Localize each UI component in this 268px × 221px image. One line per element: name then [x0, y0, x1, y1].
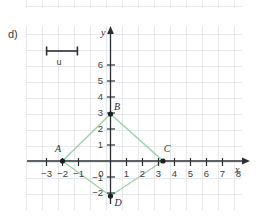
vertex-label-a: A [54, 143, 62, 154]
x-tick-label-7: 7 [220, 168, 225, 179]
vertex-label-d: D [113, 197, 122, 208]
x-tick-label--1: −1 [73, 168, 84, 179]
y-tick-label-1: 1 [98, 139, 103, 150]
y-tick-label-4: 4 [98, 91, 103, 102]
x-tick-label-3: 3 [156, 168, 161, 179]
y-axis-arrow [107, 26, 114, 34]
x-tick-label--3: −3 [41, 168, 52, 179]
unit-marker-label: u [56, 57, 61, 67]
figure-panel-d: d) u x y [0, 0, 268, 221]
rhombus-shape [63, 114, 164, 196]
unit-marker [46, 47, 78, 56]
y-tick-label-6: 6 [98, 59, 103, 70]
vertex-label-b: B [114, 101, 120, 112]
x-tick-label-6: 6 [204, 168, 209, 179]
vertex-point-d [108, 193, 113, 198]
vertex-point-c [160, 158, 165, 163]
x-tick-label--2: −2 [57, 168, 68, 179]
y-tick-label-3: 3 [98, 107, 103, 118]
vertex-point-b [108, 111, 113, 116]
x-tick-label-2: 2 [140, 168, 145, 179]
coordinate-plane: u x y −3 −2 −1 0 [0, 0, 268, 221]
y-tick-label--2: −2 [92, 187, 103, 198]
vertex-point-a [60, 158, 65, 163]
x-tick-label-8: 8 [236, 168, 241, 179]
y-tick-label--1: −1 [92, 172, 103, 183]
x-tick-label-4: 4 [172, 168, 177, 179]
x-tick-label-1: 1 [124, 168, 129, 179]
x-axis-arrow [242, 158, 250, 165]
x-axis-ticks [47, 158, 223, 166]
y-tick-label-2: 2 [98, 123, 103, 134]
y-tick-label-5: 5 [98, 75, 103, 86]
x-tick-label-5: 5 [188, 168, 193, 179]
vertex-label-c: C [164, 143, 171, 154]
y-axis-label: y [100, 27, 106, 38]
